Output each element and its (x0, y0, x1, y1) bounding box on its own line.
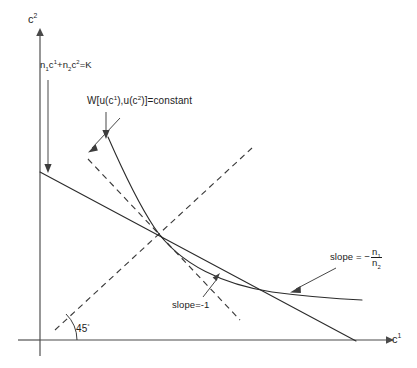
welfare-curve-diagonal-pointer (88, 118, 120, 153)
optimal-allocation-figure: c2 c1 n1c1+n2c2=K W[u(c1),u(c2)]=constan… (0, 0, 417, 368)
slope-ratio-fraction: n1n2 (371, 247, 382, 268)
forty-five-degree-ray (55, 148, 252, 330)
budget-constraint-pointer (44, 80, 51, 173)
slope-negative-one-label: slope=-1 (172, 300, 210, 310)
welfare-label-pointer (102, 112, 109, 139)
slope-ratio-label: slope = −n1n2 (330, 247, 382, 268)
budget-constraint-label: n1c1+n2c2=K (40, 60, 92, 70)
diagram-canvas (0, 0, 417, 368)
x-axis-label: c1 (392, 334, 402, 345)
slope-negative-one-pointer (203, 273, 220, 297)
y-axis-arrowhead (36, 28, 44, 36)
angle-45-label: 45° (76, 324, 90, 334)
welfare-function-label: W[u(c1),u(c2)]=constant (87, 96, 192, 106)
welfare-indifference-curve (108, 137, 362, 300)
slope-ratio-pointer (290, 268, 336, 293)
y-axis-label: c2 (28, 14, 38, 25)
budget-constraint-line (40, 172, 356, 341)
